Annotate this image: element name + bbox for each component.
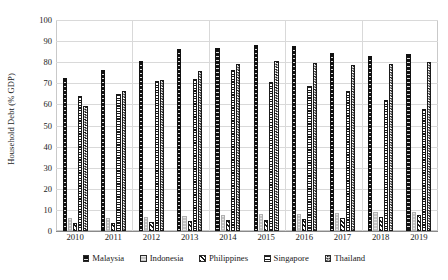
bar-malaysia-2013[interactable]	[177, 49, 181, 231]
legend-swatch-malaysia-icon	[83, 255, 90, 262]
x-tick-label-2017: 2017	[334, 233, 351, 242]
bar-thailand-2016[interactable]	[313, 63, 317, 231]
y-tick-label: 100	[39, 16, 52, 25]
bar-singapore-2019[interactable]	[422, 109, 426, 231]
bar-singapore-2013[interactable]	[193, 79, 197, 231]
bar-singapore-2015[interactable]	[269, 82, 273, 231]
x-tick-label-2013: 2013	[181, 233, 198, 242]
bar-singapore-2014[interactable]	[231, 70, 235, 231]
bar-group-2015	[247, 20, 285, 231]
bar-malaysia-2015[interactable]	[254, 45, 258, 231]
legend-label-indonesia: Indonesia	[150, 254, 184, 263]
y-tick-label: 80	[44, 58, 53, 67]
bar-indonesia-2019[interactable]	[412, 212, 416, 231]
legend-label-malaysia: Malaysia	[92, 254, 124, 263]
bar-group-2017	[323, 20, 361, 231]
x-tick-label-2015: 2015	[257, 233, 274, 242]
y-tick-label: 0	[48, 227, 52, 236]
legend-label-singapore: Singapore	[274, 254, 309, 263]
bar-indonesia-2015[interactable]	[259, 214, 263, 231]
y-tick-label: 70	[44, 79, 53, 88]
bar-indonesia-2016[interactable]	[297, 214, 301, 231]
x-tick-label-2010: 2010	[66, 233, 83, 242]
bar-thailand-2013[interactable]	[198, 71, 202, 231]
bar-philippines-2011[interactable]	[111, 223, 115, 231]
legend-item-thailand[interactable]: Thailand	[325, 254, 365, 263]
bar-singapore-2011[interactable]	[116, 94, 120, 231]
bar-philippines-2019[interactable]	[417, 215, 421, 231]
y-tick-label: 20	[44, 185, 53, 194]
bar-group-2014	[209, 20, 247, 231]
bar-philippines-2016[interactable]	[302, 219, 306, 231]
bar-malaysia-2010[interactable]	[63, 78, 67, 231]
bar-group-2013	[171, 20, 209, 231]
legend-item-malaysia[interactable]: Malaysia	[83, 254, 124, 263]
bar-thailand-2014[interactable]	[236, 64, 240, 231]
y-tick-label: 30	[44, 163, 53, 172]
bar-indonesia-2010[interactable]	[68, 218, 72, 231]
bar-thailand-2019[interactable]	[427, 62, 431, 231]
y-tick-label: 40	[44, 142, 53, 151]
legend-label-philippines: Philippines	[209, 254, 248, 263]
bar-indonesia-2012[interactable]	[144, 217, 148, 231]
x-tick-label-2014: 2014	[219, 233, 236, 242]
bar-malaysia-2019[interactable]	[406, 54, 410, 231]
legend-item-indonesia[interactable]: Indonesia	[140, 254, 183, 263]
bar-singapore-2017[interactable]	[346, 91, 350, 231]
x-axis-tick-labels: 2010201120122013201420152016201720182019	[56, 233, 438, 249]
bar-singapore-2012[interactable]	[155, 81, 159, 231]
y-tick-label: 10	[44, 206, 53, 215]
bar-indonesia-2011[interactable]	[106, 218, 110, 232]
legend-item-philippines[interactable]: Philippines	[199, 254, 248, 263]
bar-thailand-2010[interactable]	[83, 106, 87, 231]
legend-label-thailand: Thailand	[334, 254, 365, 263]
y-tick-label: 60	[44, 100, 53, 109]
y-axis-tick-labels: 0102030405060708090100	[0, 0, 56, 251]
bar-group-2018	[362, 20, 400, 231]
y-tick-label: 90	[44, 37, 53, 46]
bar-philippines-2015[interactable]	[264, 220, 268, 231]
legend-swatch-philippines-icon	[199, 255, 206, 262]
bar-malaysia-2018[interactable]	[368, 56, 372, 231]
bar-group-2012	[132, 20, 170, 231]
legend-swatch-indonesia-icon	[140, 255, 147, 262]
bar-philippines-2010[interactable]	[73, 223, 77, 231]
x-tick-label-2011: 2011	[105, 233, 122, 242]
bar-group-2016	[285, 20, 323, 231]
bar-group-2010	[56, 20, 94, 231]
bar-philippines-2013[interactable]	[188, 221, 192, 231]
bar-philippines-2012[interactable]	[149, 222, 153, 231]
x-tick-label-2012: 2012	[143, 233, 160, 242]
bar-group-2011	[94, 20, 132, 231]
bar-malaysia-2014[interactable]	[215, 48, 219, 231]
bar-philippines-2018[interactable]	[379, 217, 383, 231]
x-tick-label-2018: 2018	[372, 233, 389, 242]
bar-malaysia-2017[interactable]	[330, 53, 334, 231]
bar-malaysia-2012[interactable]	[139, 61, 143, 231]
bar-singapore-2010[interactable]	[78, 96, 82, 231]
household-debt-bar-chart: Household Debt (% GDP) 01020304050607080…	[0, 0, 448, 280]
bar-indonesia-2014[interactable]	[221, 215, 225, 231]
bar-thailand-2017[interactable]	[351, 65, 355, 231]
bars-layer	[56, 20, 438, 231]
bar-thailand-2011[interactable]	[122, 91, 126, 231]
bar-thailand-2015[interactable]	[274, 61, 278, 231]
legend-swatch-thailand-icon	[325, 255, 332, 262]
bar-thailand-2012[interactable]	[160, 80, 164, 231]
x-tick-label-2019: 2019	[410, 233, 427, 242]
bar-group-2019	[400, 20, 438, 231]
chart-legend: MalaysiaIndonesiaPhilippinesSingaporeTha…	[0, 254, 448, 263]
bar-singapore-2016[interactable]	[307, 86, 311, 231]
x-tick-label-2016: 2016	[296, 233, 313, 242]
bar-malaysia-2011[interactable]	[101, 70, 105, 231]
bar-philippines-2017[interactable]	[340, 218, 344, 231]
bar-indonesia-2017[interactable]	[335, 213, 339, 231]
bar-thailand-2018[interactable]	[389, 64, 393, 231]
bar-indonesia-2018[interactable]	[373, 212, 377, 231]
bar-philippines-2014[interactable]	[226, 220, 230, 231]
bar-malaysia-2016[interactable]	[292, 46, 296, 231]
bar-singapore-2018[interactable]	[384, 100, 388, 231]
y-tick-label: 50	[44, 121, 53, 130]
bar-indonesia-2013[interactable]	[182, 216, 186, 231]
legend-item-singapore[interactable]: Singapore	[264, 254, 309, 263]
